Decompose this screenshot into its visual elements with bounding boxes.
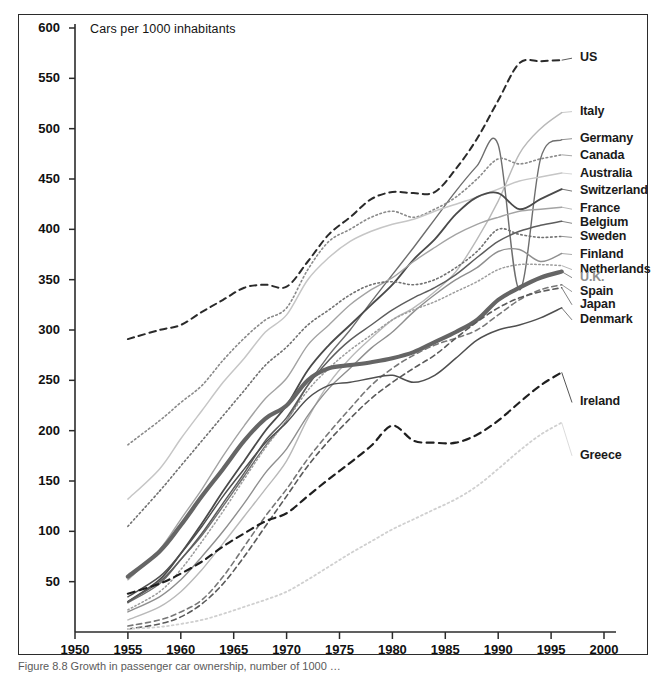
series-line-ireland [128,372,562,593]
leader-line-greece [562,423,572,456]
series-label-finland: Finland [580,247,623,261]
leader-line-sweden [562,236,572,237]
y-tick-label: 500 [26,121,60,136]
leader-layer [562,58,572,456]
series-label-japan: Japan [580,297,615,311]
y-tick-label: 350 [26,272,60,287]
x-tick-label: 1990 [476,642,520,657]
series-line-japan [128,288,562,629]
y-tick-label: 400 [26,221,60,236]
y-tick-label: 50 [26,574,60,589]
y-tick-label: 300 [26,322,60,337]
x-tick-label: 1995 [529,642,573,657]
series-line-us [128,60,562,339]
leader-line-ireland [562,372,572,402]
x-tick-label: 1960 [159,642,203,657]
leader-line-uk [562,272,572,278]
x-tick-label: 1980 [370,642,414,657]
series-label-uk: U.K. [580,270,604,284]
figure-root: Cars per 1000 inhabitants 60055050045040… [0,0,666,673]
series-line-switzerland [128,189,562,602]
series-line-sweden [128,229,562,527]
x-tick-label: 1985 [423,642,467,657]
series-line-germany [128,138,562,603]
series-label-italy: Italy [580,104,604,118]
series-label-germany: Germany [580,131,633,145]
x-tick-label: 1975 [318,642,362,657]
leader-line-italy [562,112,572,113]
chart-canvas [0,0,666,673]
x-tick-label: 1970 [265,642,309,657]
series-label-spain: Spain [580,284,613,298]
leader-line-australia [562,173,572,174]
leader-line-finland [562,254,572,255]
leader-line-belgium [562,221,572,223]
series-label-ireland: Ireland [580,394,620,408]
series-label-denmark: Denmark [580,312,632,326]
series-label-belgium: Belgium [580,215,628,229]
leader-line-us [562,58,572,60]
series-line-greece [128,423,562,629]
series-label-us: US [580,50,597,64]
leader-line-denmark [562,308,572,320]
x-tick-label: 2000 [582,642,626,657]
y-tick-label: 200 [26,423,60,438]
x-tick-label: 1950 [53,642,97,657]
y-tick-label: 250 [26,372,60,387]
leader-line-canada [562,155,572,156]
leader-line-switzerland [562,189,572,191]
y-axis-note: Cars per 1000 inhabitants [90,22,236,36]
series-line-belgium [128,221,562,602]
series-layer [128,60,562,629]
leader-line-netherlands [562,266,572,270]
series-label-france: France [580,201,620,215]
series-label-canada: Canada [580,148,624,162]
y-tick-label: 450 [26,171,60,186]
x-tick-label: 1955 [106,642,150,657]
leader-line-germany [562,139,572,140]
y-tick-label: 600 [26,20,60,35]
series-label-switzerland: Switzerland [580,183,648,197]
y-tick-label: 550 [26,70,60,85]
series-label-greece: Greece [580,448,622,462]
leader-line-france [562,207,572,209]
y-tick-label: 150 [26,473,60,488]
series-label-sweden: Sweden [580,229,626,243]
series-label-australia: Australia [580,166,632,180]
figure-caption: Figure 8.8 Growth in passenger car owner… [18,660,658,672]
x-tick-label: 1965 [212,642,256,657]
y-tick-label: 100 [26,523,60,538]
